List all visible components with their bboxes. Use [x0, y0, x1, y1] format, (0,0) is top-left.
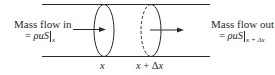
- cross-section-x-plus-dx-back: [141, 5, 151, 57]
- position-label-x-plus-dx: x + Δx: [136, 61, 163, 72]
- outflow-eq-sign: =: [219, 30, 228, 41]
- position-label-x: x: [100, 61, 105, 72]
- inflow-subscript: x: [52, 36, 55, 44]
- inflow-label: Mass flow in: [14, 19, 71, 30]
- inflow-equation: = ρuSx: [25, 31, 55, 44]
- evaluation-bar: [50, 31, 51, 42]
- outflow-arrow-icon: [150, 28, 184, 33]
- evaluation-bar: [244, 31, 245, 42]
- inflow-arrow-icon: [73, 27, 106, 32]
- control-volume-diagram: Mass flow in = ρuSx Mass flow out = ρuSx…: [0, 0, 275, 75]
- inflow-eq-sign: =: [25, 30, 34, 41]
- plus-sign: +: [141, 60, 152, 71]
- delta-symbol: Δ: [152, 60, 159, 71]
- outflow-label: Mass flow out: [211, 19, 274, 30]
- cross-section-x: [94, 5, 114, 57]
- outflow-subscript: x + Δx: [246, 36, 265, 44]
- inflow-expression: ρuS: [34, 30, 50, 41]
- outflow-expression: ρuS: [228, 30, 244, 41]
- outflow-equation: = ρuSx + Δx: [219, 31, 265, 44]
- var-x2: x: [159, 60, 164, 71]
